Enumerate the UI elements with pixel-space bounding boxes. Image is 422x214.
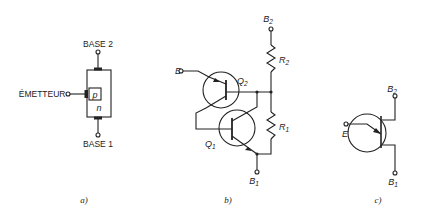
- emitter-label: ÉMETTEUR: [19, 89, 66, 99]
- panel-a-ujt-structure: BASE 2 p n ÉMETTEUR BASE 1 a): [19, 39, 113, 205]
- b1-terminal: [393, 171, 397, 175]
- b2-label: B2: [263, 14, 273, 25]
- q2-collector: [206, 96, 226, 108]
- b1-label: B1: [249, 176, 259, 187]
- q1-emitter: [232, 136, 257, 154]
- panel-b-equivalent-circuit: B2 R2 R1 E Q2 Q1: [175, 14, 290, 205]
- b2-label: B2: [387, 84, 397, 95]
- resistor-r2: [267, 45, 275, 72]
- transistor-q1: [219, 110, 255, 146]
- panel-c-ujt-symbol: B2 E B1 c): [342, 84, 398, 205]
- panel-c-caption: c): [375, 195, 382, 205]
- resistor-r1: [267, 112, 275, 139]
- q1-label: Q1: [205, 139, 216, 150]
- p-region-label: p: [91, 90, 97, 100]
- b1-label: B1: [388, 177, 398, 188]
- e-label: E: [342, 129, 349, 139]
- base2-terminal: [96, 50, 100, 54]
- e-terminal: [344, 122, 348, 126]
- b1-lead: [382, 145, 395, 171]
- b2-lead: [382, 98, 395, 120]
- panel-a-caption: a): [80, 195, 88, 205]
- e-terminal: [179, 69, 183, 73]
- b1-terminal: [255, 170, 259, 174]
- panel-b-caption: b): [224, 195, 232, 205]
- q1-collector: [232, 92, 257, 121]
- emitter-terminal: [66, 92, 70, 96]
- n-region-label: n: [96, 103, 101, 113]
- q2-label: Q2: [237, 76, 248, 87]
- ujt-figure: BASE 2 p n ÉMETTEUR BASE 1 a) B2 R2 R1: [0, 0, 422, 214]
- r1-label: R1: [279, 122, 290, 133]
- base1-terminal: [96, 133, 100, 137]
- base2-label: BASE 2: [83, 39, 113, 49]
- q2c-q1b-wire: [196, 108, 232, 129]
- r2-label: R2: [279, 55, 290, 66]
- emitter-contact: [85, 90, 89, 98]
- base1-label: BASE 1: [83, 139, 113, 149]
- b2-terminal: [393, 94, 397, 98]
- transistor-q2: [203, 72, 239, 108]
- b2-terminal: [269, 27, 273, 31]
